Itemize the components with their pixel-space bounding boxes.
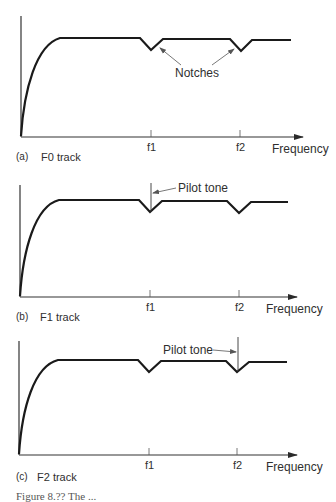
panel-c-title: F2 track	[37, 472, 77, 483]
panel-a-tag: (a)	[16, 152, 28, 162]
panel-c-plot	[19, 337, 297, 455]
panel-b-plot	[20, 183, 297, 297]
panel-a-annotation-notches: Notches	[175, 67, 219, 79]
panel-b-annotation-pilot-tone: Pilot tone	[178, 182, 228, 194]
panel-c-annotation-pilot-tone: Pilot tone	[163, 344, 213, 356]
panel-b-pilot-tone-pointer	[153, 188, 176, 193]
panel-a-f1-label: f1	[147, 142, 156, 153]
panel-c-response-curve	[19, 360, 287, 454]
panel-b-x-axis-label: Frequency	[266, 303, 323, 315]
panel-b-f1-label: f1	[146, 302, 155, 313]
panel-c-f1-label: f1	[145, 460, 154, 471]
panel-c-pilot-tone-pointer	[213, 350, 236, 352]
panel-a-response-curve	[21, 38, 291, 136]
panel-a-plot	[21, 16, 303, 137]
figure-caption: Figure 8.?? The ...	[16, 490, 96, 502]
panel-c-f2-label: f2	[233, 460, 242, 471]
notch-pointer-1	[160, 48, 181, 65]
panel-a-f2-label: f2	[236, 142, 245, 153]
panel-b-f2-label: f2	[235, 302, 244, 313]
panel-b-tag: (b)	[16, 312, 28, 322]
notch-pointer-2	[212, 49, 234, 65]
panel-c-x-axis-label: Frequency	[266, 461, 323, 473]
panel-b-response-curve	[20, 200, 288, 296]
panel-a-x-axis-label: Frequency	[272, 143, 329, 155]
panel-c-tag: (c)	[16, 472, 28, 482]
panel-a-title: F0 track	[41, 152, 81, 163]
panel-b-title: F1 track	[40, 312, 80, 323]
